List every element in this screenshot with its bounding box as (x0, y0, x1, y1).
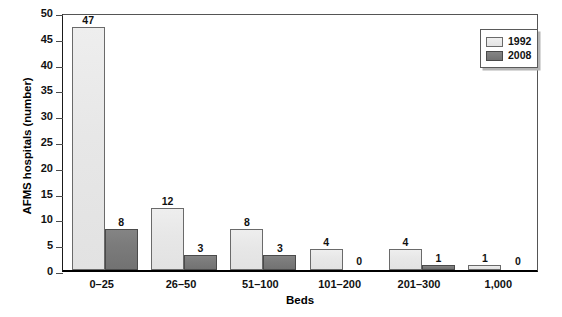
y-axis-tick-label: 40 (27, 59, 53, 71)
legend-swatch-icon-1992 (486, 37, 503, 47)
y-axis-tick-mark (56, 273, 63, 274)
y-axis-tick-mark (56, 15, 63, 16)
x-axis-tick-label: 26–50 (141, 278, 220, 290)
bar-value-label: 1 (436, 252, 442, 264)
plot-area: 05101520253035404550 47812383404110 (62, 14, 538, 272)
y-axis-tick-label: 50 (27, 7, 53, 19)
bar-1992-1,000: 1 (468, 265, 501, 270)
x-axis-tick-label: 0–25 (62, 278, 141, 290)
y-axis-tick-label: 0 (27, 265, 53, 277)
x-axis-tick-label: 101–200 (300, 278, 379, 290)
y-axis-tick-label: 20 (27, 162, 53, 174)
bar-1992-26–50: 12 (151, 208, 184, 270)
bar-2008-0–25: 8 (105, 229, 138, 270)
bar-1992-0–25: 47 (72, 27, 105, 270)
y-axis-tick-label: 10 (27, 213, 53, 225)
bar-2008-201–300: 1 (422, 265, 455, 270)
y-axis-tick-label: 35 (27, 84, 53, 96)
bar-value-label: 4 (323, 236, 329, 248)
y-axis-tick-mark (56, 221, 63, 222)
bar-1992-51–100: 8 (230, 229, 263, 270)
y-axis-tick-mark (56, 144, 63, 145)
bar-2008-51–100: 3 (263, 255, 296, 270)
bar-value-label: 8 (118, 216, 124, 228)
chart-legend: 1992 2008 (480, 29, 538, 68)
bar-value-label: 3 (277, 242, 283, 254)
y-axis-tick-mark (56, 118, 63, 119)
bar-value-label: 1 (482, 252, 488, 264)
bar-value-label: 4 (403, 236, 409, 248)
x-axis-tick-label: 1,000 (459, 278, 538, 290)
bar-value-label: 47 (82, 14, 94, 26)
legend-item-2008: 2008 (486, 49, 531, 62)
y-axis-tick-mark (56, 247, 63, 248)
bar-1992-201–300: 4 (389, 249, 422, 270)
x-axis-tick-label: 51–100 (221, 278, 300, 290)
bar-2008-26–50: 3 (184, 255, 217, 270)
y-axis-tick-label: 25 (27, 136, 53, 148)
y-axis-tick-mark (56, 170, 63, 171)
y-axis-tick-label: 15 (27, 188, 53, 200)
y-axis-tick-label: 5 (27, 239, 53, 251)
x-axis-tick-label: 201–300 (379, 278, 458, 290)
bar-value-label: 3 (198, 242, 204, 254)
legend-label-2008: 2008 (508, 50, 531, 61)
bar-value-label: 12 (162, 195, 174, 207)
chart-figure: AFMS hospitals (number) Beds 05101520253… (0, 0, 562, 317)
y-axis-tick-label: 45 (27, 33, 53, 45)
y-axis-tick-label: 30 (27, 110, 53, 122)
bar-value-label: 8 (244, 216, 250, 228)
y-axis-tick-mark (56, 92, 63, 93)
legend-item-1992: 1992 (486, 35, 531, 48)
legend-label-1992: 1992 (508, 36, 531, 47)
y-axis-tick-mark (56, 67, 63, 68)
y-axis-tick-mark (56, 41, 63, 42)
legend-swatch-icon-2008 (486, 51, 503, 61)
bar-1992-101–200: 4 (310, 249, 343, 270)
bar-value-label-zero-2008-1,000: 0 (501, 255, 534, 267)
bar-value-label-zero-2008-101–200: 0 (343, 255, 376, 267)
y-axis-tick-mark (56, 196, 63, 197)
x-axis-title: Beds (62, 294, 538, 306)
